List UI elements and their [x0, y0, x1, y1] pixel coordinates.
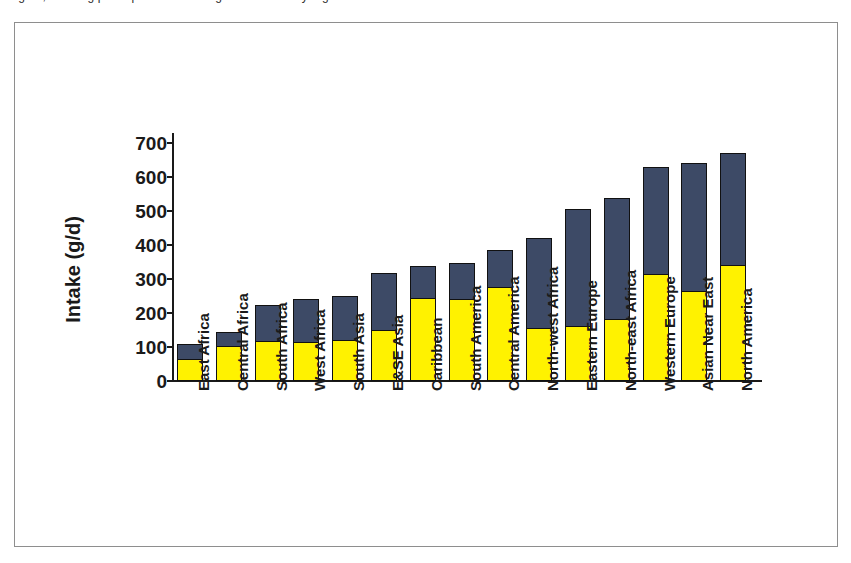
y-axis-tickmark-400	[167, 244, 173, 246]
y-axis-tickmark-300	[167, 278, 173, 280]
x-axis-label-e-se-asia: E&SE Asia	[390, 241, 405, 391]
x-axis-label-central-america: Central America	[506, 241, 521, 391]
x-axis-label-north-east-africa: North-east Africa	[623, 241, 638, 391]
x-axis-label-north-america: North America	[739, 241, 754, 391]
x-axis-label-western-europe: Western Europe	[662, 241, 677, 391]
x-axis-label-south-asia: South Asia	[351, 241, 366, 391]
figure-frame: Intake (g/d) 0100200300400500600700 East…	[14, 22, 838, 547]
x-axis-label-east-africa: East Africa	[196, 241, 211, 391]
x-axis-label-west-africa: West Africa	[312, 241, 327, 391]
y-axis-tickmark-0	[167, 380, 173, 382]
y-axis-tickmark-100	[167, 346, 173, 348]
y-axis-tickmark-200	[167, 312, 173, 314]
x-axis-label-caribbean: Caribbean	[429, 241, 444, 391]
clipped-caption-text: Figure, showing per capita fruit and veg…	[8, 0, 345, 3]
x-axis-label-south-africa: South Africa	[274, 241, 289, 391]
x-axis-label-eastern-europe: Eastern Europe	[584, 241, 599, 391]
x-axis-category-labels: East AfricaCentral AfricaSouth AfricaWes…	[15, 23, 839, 548]
x-axis-label-asian-near-east: Asian Near East	[700, 241, 715, 391]
y-axis-tickmark-700	[167, 142, 173, 144]
chart-plot-area: Intake (g/d) 0100200300400500600700 East…	[15, 23, 839, 548]
clipped-caption-strip: Figure, showing per capita fruit and veg…	[0, 0, 851, 14]
y-axis-tickmark-600	[167, 176, 173, 178]
x-axis-label-north-west-africa: North-west Africa	[545, 241, 560, 391]
x-axis-label-central-africa: Central Africa	[235, 241, 250, 391]
y-axis-tickmark-500	[167, 210, 173, 212]
x-axis-label-south-america: South America	[468, 241, 483, 391]
